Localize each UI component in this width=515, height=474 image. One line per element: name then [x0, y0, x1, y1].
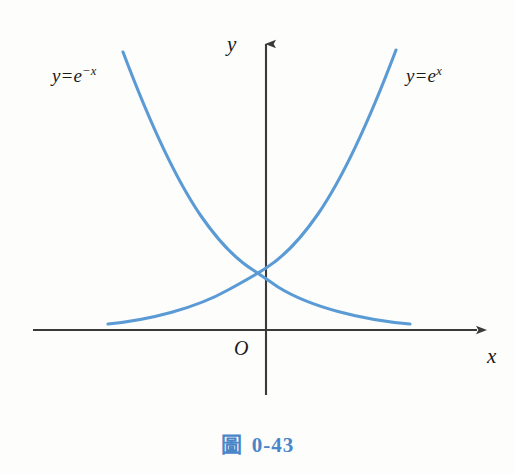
- grow-base: e: [428, 65, 437, 86]
- origin-label: O: [234, 338, 248, 358]
- y-axis-label: y: [227, 34, 236, 55]
- caption-word: 圖: [221, 433, 243, 457]
- grow-equals: =: [415, 65, 428, 86]
- grow-exponent: x: [436, 64, 442, 78]
- decay-exponent: −x: [82, 64, 96, 78]
- decay-equals: =: [61, 65, 74, 86]
- x-axis-label: x: [487, 346, 496, 367]
- decay-lhs: y: [52, 65, 61, 86]
- grow-lhs: y: [406, 65, 415, 86]
- curve-label-exp-decay: y=e−x: [52, 66, 97, 85]
- figure-container: y x O y=e−x y=ex 圖0-43: [0, 0, 515, 474]
- decay-base: e: [74, 65, 83, 86]
- figure-caption: 圖0-43: [0, 428, 515, 458]
- caption-number: 0-43: [252, 433, 295, 457]
- curve-exp-growth: [108, 50, 396, 324]
- curve-label-exp-growth: y=ex: [406, 66, 442, 85]
